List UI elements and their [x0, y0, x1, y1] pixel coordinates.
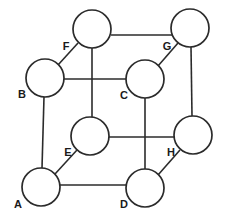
cube-graph-diagram: ABCDEFGH	[0, 0, 227, 219]
vertex-node-a[interactable]	[22, 168, 60, 206]
vertex-label-e: E	[64, 146, 71, 158]
vertex-label-c: C	[120, 89, 128, 101]
vertex-node-f[interactable]	[73, 10, 111, 48]
vertex-node-b[interactable]	[26, 59, 64, 97]
vertices-layer	[22, 9, 212, 207]
edge-B-A	[42, 97, 44, 168]
vertex-label-b: B	[18, 88, 26, 100]
vertex-label-g: G	[163, 40, 172, 52]
edge-G-H	[191, 47, 192, 116]
vertex-node-h[interactable]	[174, 116, 212, 154]
vertex-label-h: H	[167, 146, 175, 158]
vertex-label-f: F	[63, 40, 70, 52]
vertex-node-g[interactable]	[171, 9, 209, 47]
vertex-label-a: A	[14, 198, 22, 210]
vertex-node-e[interactable]	[71, 117, 109, 155]
vertex-node-d[interactable]	[126, 169, 164, 207]
vertex-node-c[interactable]	[126, 60, 164, 98]
edges-layer	[42, 35, 192, 185]
cube-graph-canvas: ABCDEFGH	[0, 0, 227, 219]
vertex-label-d: D	[120, 198, 128, 210]
